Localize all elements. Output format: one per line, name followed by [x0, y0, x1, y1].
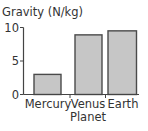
y-axis-label: Gravity (N/kg) [2, 5, 83, 19]
bars-group [34, 31, 137, 95]
y-tick-label: 5 [12, 54, 19, 68]
y-tick-label: 10 [4, 21, 19, 35]
x-axis-label: Planet [70, 110, 107, 124]
gravity-bar-chart: Gravity (N/kg) 0510 MercuryVenusEarth Pl… [0, 0, 148, 131]
x-tick-label-earth: Earth [108, 97, 139, 111]
y-ticks-group: 0510 [4, 21, 23, 102]
x-tick-label-venus: Venus [71, 97, 106, 111]
bar-earth [108, 31, 137, 95]
x-ticks-group: MercuryVenusEarth [25, 95, 139, 112]
y-tick-label: 0 [12, 88, 19, 102]
bar-mercury [34, 74, 61, 94]
bar-venus [75, 35, 102, 95]
chart-canvas: Gravity (N/kg) 0510 MercuryVenusEarth Pl… [0, 0, 148, 131]
x-tick-label-mercury: Mercury [25, 97, 72, 111]
